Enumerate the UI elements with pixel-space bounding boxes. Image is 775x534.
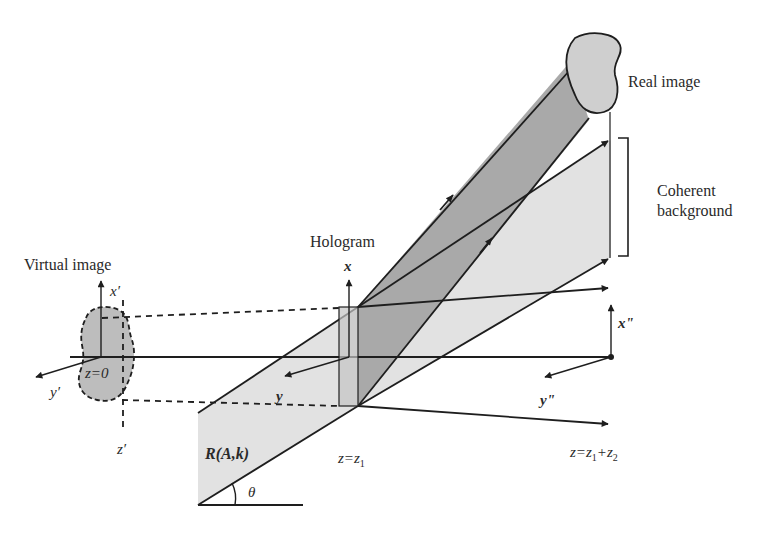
holography-diagram: Virtual image Hologram Real image Cohere…: [0, 0, 775, 534]
coherent-label-line2: background: [657, 202, 733, 220]
hologram-x-label: x: [343, 258, 352, 274]
coherent-label-line1: Coherent: [657, 182, 716, 199]
virtual-x-label: x′: [109, 283, 121, 299]
image-y-label: y": [538, 392, 555, 408]
virtual-image-label: Virtual image: [24, 256, 111, 274]
reference-wave-label: R(A,k): [204, 445, 249, 463]
hologram-y-label: y: [274, 388, 283, 404]
image-position-label: z=z1+z2: [569, 444, 618, 463]
virtual-y-label: y′: [48, 384, 61, 400]
virtual-image-object: [79, 307, 134, 401]
angle-theta-label: θ: [248, 484, 256, 500]
virtual-origin-label: z=0: [84, 365, 109, 381]
hologram-label: Hologram: [310, 233, 375, 251]
virtual-z-label: z′: [116, 441, 127, 457]
real-image-label: Real image: [628, 73, 700, 91]
coherent-background-bracket: [618, 138, 628, 256]
hologram-position-label: z=z1: [337, 450, 365, 469]
image-y-axis: [545, 357, 611, 377]
image-x-label: x": [617, 315, 634, 331]
